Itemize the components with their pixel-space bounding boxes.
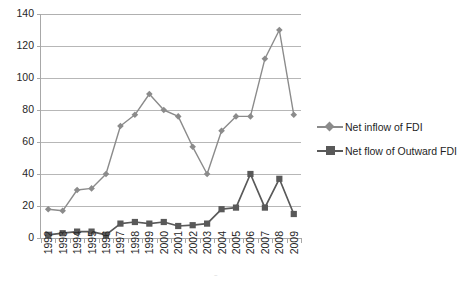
data-point-marker (233, 205, 239, 211)
x-axis-label-text: 1998 (129, 231, 140, 254)
data-point-marker (262, 205, 268, 211)
y-axis-label-40: 40 (4, 168, 34, 179)
data-point-marker (45, 206, 52, 213)
legend-diamond-inflow (325, 122, 335, 132)
x-axis-labels: 1992199319941995199619971998199920002001… (41, 229, 301, 281)
y-axis-label-100: 100 (4, 72, 34, 83)
x-axis-label-2003: 2003 (200, 229, 214, 269)
series-net-inflow-of-fdi (45, 27, 297, 214)
series-line (48, 30, 294, 211)
x-axis-label-2005: 2005 (229, 229, 243, 269)
fdi-line-chart: 020406080100120140 199219931994199519961… (0, 0, 459, 286)
series-line (48, 174, 294, 235)
x-axis-label-text: 1994 (72, 231, 83, 254)
data-point-marker (276, 176, 282, 182)
data-point-marker (262, 56, 269, 63)
x-axis-label-2001: 2001 (171, 229, 185, 269)
x-axis-label-2009: 2009 (287, 229, 301, 269)
x-axis-label-text: 2002 (187, 231, 198, 254)
x-axis-label-1994: 1994 (70, 229, 84, 269)
x-axis-label-text: 1992 (43, 231, 54, 254)
x-axis-label-2006: 2006 (243, 229, 257, 269)
x-axis-label-text: 1995 (86, 231, 97, 254)
data-point-marker (132, 219, 138, 225)
x-axis-label-text: 2000 (158, 231, 169, 254)
x-tick-18 (301, 238, 302, 243)
data-point-marker (204, 221, 210, 227)
chart-legend: Net inflow of FDI Net flow of Outward FD… (317, 117, 457, 165)
x-axis-label-text: 2009 (288, 231, 299, 254)
x-axis-label-text: 2003 (202, 231, 213, 254)
y-axis-label-80: 80 (4, 104, 34, 115)
data-point-marker (189, 144, 196, 151)
x-axis-label-text: 1999 (144, 231, 155, 254)
legend-label-outward: Net flow of Outward FDI (345, 145, 457, 157)
y-axis-label-60: 60 (4, 136, 34, 147)
data-point-marker (175, 113, 182, 120)
x-axis-label-1996: 1996 (99, 229, 113, 269)
data-point-marker (290, 112, 297, 119)
legend-square-outward (326, 146, 335, 155)
x-axis-label-2000: 2000 (157, 229, 171, 269)
legend-item-net-flow-of-outward-fdi[interactable]: Net flow of Outward FDI (317, 141, 457, 161)
x-axis-label-text: 2005 (230, 231, 241, 254)
x-axis-label-1997: 1997 (113, 229, 127, 269)
legend-item-net-inflow-of-fdi[interactable]: Net inflow of FDI (317, 117, 457, 137)
x-axis-label-text: 1997 (115, 231, 126, 254)
series-net-flow-of-outward-fdi (45, 171, 297, 238)
x-axis-label-text: 2004 (216, 231, 227, 254)
x-axis-label-text: 2008 (274, 231, 285, 254)
data-point-marker (204, 171, 211, 178)
x-axis-label-text: 2007 (259, 231, 270, 254)
y-axis-label-120: 120 (4, 40, 34, 51)
x-axis-label-2004: 2004 (214, 229, 228, 269)
plot-area (41, 14, 301, 238)
data-point-marker (117, 221, 123, 227)
data-point-marker (190, 222, 196, 228)
x-axis-label-1999: 1999 (142, 229, 156, 269)
data-point-marker (146, 221, 152, 227)
y-axis-label-0: 0 (4, 232, 34, 243)
x-axis-label-text: 2006 (245, 231, 256, 254)
data-point-marker (276, 27, 283, 34)
decorative-speck: ~ (214, 272, 218, 278)
x-axis-label-2002: 2002 (185, 229, 199, 269)
x-axis-label-1993: 1993 (55, 229, 69, 269)
data-point-marker (247, 171, 253, 177)
y-axis-label-20: 20 (4, 200, 34, 211)
x-axis-label-text: 2001 (173, 231, 184, 254)
x-axis-label-text: 1996 (100, 231, 111, 254)
x-axis-label-text: 1993 (57, 231, 68, 254)
data-point-marker (218, 206, 224, 212)
data-point-marker (291, 211, 297, 217)
data-point-marker (247, 113, 254, 120)
x-axis-label-2007: 2007 (258, 229, 272, 269)
legend-label-inflow: Net inflow of FDI (345, 121, 423, 133)
data-series-layer (41, 14, 301, 238)
y-axis-label-140: 140 (4, 8, 34, 19)
data-point-marker (161, 219, 167, 225)
square-marker-icon (317, 145, 343, 157)
x-axis-label-2008: 2008 (272, 229, 286, 269)
diamond-marker-icon (317, 121, 343, 133)
x-axis-label-1995: 1995 (84, 229, 98, 269)
x-axis-label-1992: 1992 (41, 229, 55, 269)
x-axis-label-1998: 1998 (128, 229, 142, 269)
